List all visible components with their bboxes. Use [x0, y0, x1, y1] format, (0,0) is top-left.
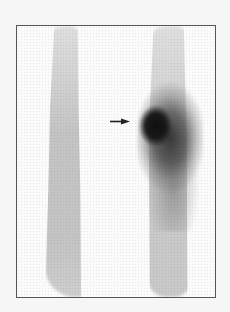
left-bone-column — [45, 26, 87, 297]
arrow-right-icon — [110, 118, 130, 125]
scan-frame — [16, 25, 216, 298]
focal-uptake-hotspot — [137, 81, 203, 231]
